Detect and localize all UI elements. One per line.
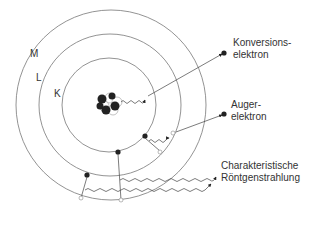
l-electron-2 [115, 149, 120, 154]
auger-label-1: Auger- [231, 99, 261, 110]
conversion-electron [221, 50, 226, 55]
xray-wave-2 [85, 184, 211, 192]
shell-label-m: M [30, 48, 38, 59]
auger-label-2: elektron [231, 111, 267, 122]
auger-electron-path [176, 115, 222, 132]
shell-label-l: L [36, 72, 42, 83]
nucleus [97, 93, 123, 116]
conversion-electron-path [148, 54, 222, 96]
m-electron [84, 172, 89, 177]
xray-label-1: Charakteristische [221, 160, 298, 171]
gamma-wave [121, 100, 145, 104]
shell-l [39, 34, 181, 176]
auger-electron [221, 111, 226, 116]
l-electron-1 [142, 133, 147, 138]
shell-label-k: K [54, 88, 61, 99]
conversion-label-2: elektron [233, 49, 269, 60]
xray-label-2: Röntgenstrahlung [221, 172, 300, 183]
conversion-label-1: Konversions- [233, 37, 291, 48]
